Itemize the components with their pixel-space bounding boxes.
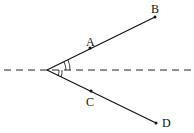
angle-arc-lower-1 — [58, 70, 59, 76]
diagram-svg — [0, 0, 194, 133]
angle-arc-upper-2 — [68, 60, 70, 70]
ray-lower — [47, 70, 156, 123]
ray-upper — [47, 17, 155, 70]
angle-arc-upper-1 — [64, 62, 66, 70]
label-C: C — [86, 96, 94, 108]
label-A: A — [86, 36, 95, 48]
point-D — [155, 122, 158, 125]
angle-arc-lower-2 — [61, 70, 62, 77]
label-B: B — [151, 3, 159, 15]
point-C — [90, 90, 93, 93]
diagram-canvas: A B C D — [0, 0, 194, 133]
label-D: D — [162, 117, 171, 129]
